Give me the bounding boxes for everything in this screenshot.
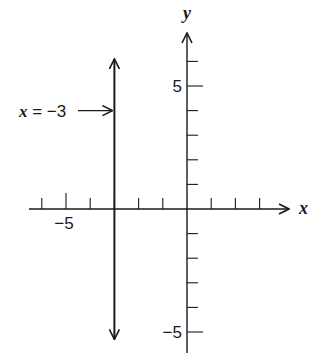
y-axis-label: y: [181, 3, 192, 23]
coordinate-plane: −55−5 x = −3 x y: [0, 0, 323, 356]
y-tick-label: 5: [173, 77, 182, 96]
y-tick-label: −5: [163, 323, 182, 342]
x-axis-label: x: [298, 198, 308, 218]
equation-label: x = −3: [18, 102, 66, 121]
axes: [29, 33, 289, 353]
axis-ticks: [42, 61, 260, 332]
x-tick-label: −5: [54, 214, 73, 233]
annotations: x = −3: [18, 102, 112, 121]
